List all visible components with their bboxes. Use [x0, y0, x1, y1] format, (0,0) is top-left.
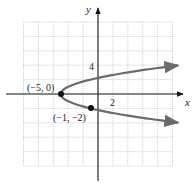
point-label: (−1, −2)	[53, 112, 86, 124]
vertex-label: (−5, 0)	[27, 82, 54, 94]
y-tick-label: 4	[89, 61, 94, 72]
y-axis-label: y	[85, 3, 91, 15]
x-axis-label: x	[184, 96, 190, 108]
point-marker	[88, 105, 94, 111]
x-tick-label: 2	[110, 97, 115, 108]
parabola-graph: x y 2 4 (−5, 0) (−1, −2)	[0, 0, 193, 183]
vertex-point	[58, 91, 64, 97]
